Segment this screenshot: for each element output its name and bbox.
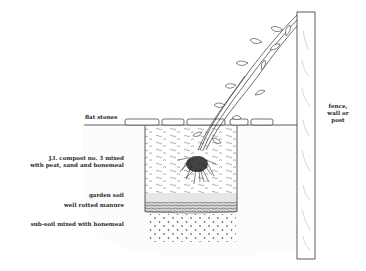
fence-post (297, 12, 315, 259)
diagram-illustration (0, 0, 366, 271)
planting-diagram: flat stones fence, wall or post J.I. com… (0, 0, 366, 271)
label-garden-soil: garden soil (10, 192, 124, 199)
label-fence-line-1: fence, (318, 103, 358, 110)
label-subsoil: sub-soil mixed with bonemeal (10, 221, 124, 228)
label-compost: J.I. compost no. 3 mixed with peat, sand… (10, 155, 124, 169)
label-flat-stones: flat stones (85, 114, 117, 121)
label-fence-line-2: wall or (318, 110, 358, 117)
planting-pit (145, 126, 237, 242)
label-compost-line-2: with peat, sand and bonemeal (10, 162, 124, 169)
label-compost-line-1: J.I. compost no. 3 mixed (10, 155, 124, 162)
manure-layer (145, 202, 237, 212)
subsoil-layer (148, 214, 236, 242)
label-manure: well rotted manure (10, 202, 124, 209)
flat-stones (125, 119, 273, 125)
leaves (193, 25, 291, 143)
label-fence: fence, wall or post (318, 103, 358, 124)
garden-soil-layer (145, 193, 237, 202)
label-fence-line-3: post (318, 117, 358, 124)
